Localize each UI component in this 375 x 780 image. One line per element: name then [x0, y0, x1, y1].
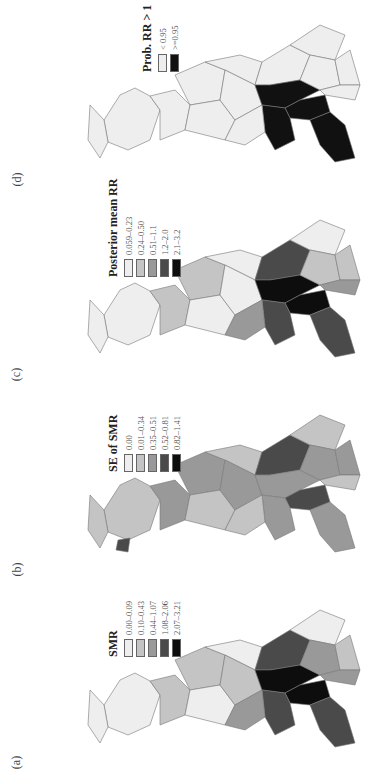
legend-label: 0.00 — [124, 435, 134, 450]
legend-item: >=0.95 — [169, 5, 180, 72]
legend-item: 2.07–3.21 — [171, 601, 182, 657]
panel-label-b: (b) — [10, 563, 25, 577]
legend-label: 2.1–3.2 — [172, 230, 182, 256]
legend-label: >=0.95 — [170, 26, 180, 50]
legend-b: SE of SMR 0.00 0.01–0.34 0.35–0.51 0.52–… — [106, 415, 183, 472]
legend-label: 0.51–1.1 — [148, 225, 158, 255]
map-panel-b: (b) SE of SMR 0.00 0.01–0.34 0.35–0.51 0… — [0, 390, 375, 585]
legend-d: Prob. RR > 1 < 0.95 >=0.95 — [140, 5, 181, 72]
legend-title: SMR — [106, 601, 121, 657]
legend-swatch — [124, 454, 133, 472]
legend-item: 0.51–1.1 — [147, 179, 158, 277]
legend-swatch — [160, 454, 169, 472]
legend-swatch — [148, 259, 157, 277]
legend-label: 0.44–1.07 — [148, 601, 158, 635]
legend-label: 1.08–2.06 — [160, 601, 170, 635]
map-panel-c: (c) Posterior mean RR 0.059–0.23 0.24–0.… — [0, 195, 375, 390]
legend-label: < 0.95 — [158, 28, 168, 50]
legend-swatch — [136, 639, 145, 657]
legend-swatch — [160, 259, 169, 277]
legend-c: Posterior mean RR 0.059–0.23 0.24–0.50 0… — [106, 179, 183, 277]
legend-item: 1.2–2.0 — [159, 179, 170, 277]
map-panel-d: (d) Prob. RR > 1 < 0.95 >=0.95 — [0, 0, 375, 195]
legend-item: 0.35–0.51 — [147, 415, 158, 472]
panel-label-d: (d) — [10, 173, 25, 187]
legend-item: < 0.95 — [157, 5, 168, 72]
panel-label-a: (a) — [9, 756, 24, 769]
legend-label: 0.059–0.23 — [124, 217, 134, 255]
choropleth-map-c — [0, 195, 375, 390]
legend-swatch — [170, 54, 179, 72]
legend-label: 0.52–0.81 — [160, 416, 170, 450]
legend-item: 0.82–1.41 — [171, 415, 182, 472]
choropleth-map-d — [0, 0, 375, 195]
legend-label: 0.24–0.50 — [136, 221, 146, 255]
legend-title: Prob. RR > 1 — [140, 5, 155, 72]
legend-item: 0.01–0.34 — [135, 415, 146, 472]
panel-label-c: (c) — [9, 368, 24, 381]
legend-swatch — [136, 259, 145, 277]
map-panel-a: (a) SMR 0.00–0.09 0.10–0.43 0.44–1.07 1.… — [0, 585, 375, 780]
legend-swatch — [148, 639, 157, 657]
legend-label: 0.35–0.51 — [148, 416, 158, 450]
legend-item: 0.00–0.09 — [123, 601, 134, 657]
legend-swatch — [172, 259, 181, 277]
legend-label: 0.00–0.09 — [124, 601, 134, 635]
legend-a: SMR 0.00–0.09 0.10–0.43 0.44–1.07 1.08–2… — [106, 601, 183, 657]
legend-swatch — [158, 54, 167, 72]
legend-title: SE of SMR — [106, 415, 121, 472]
legend-label: 0.10–0.43 — [136, 601, 146, 635]
legend-item: 0.00 — [123, 415, 134, 472]
legend-swatch — [160, 639, 169, 657]
legend-swatch — [172, 454, 181, 472]
legend-swatch — [148, 454, 157, 472]
legend-title: Posterior mean RR — [106, 179, 121, 277]
legend-swatch — [136, 454, 145, 472]
legend-swatch — [124, 259, 133, 277]
legend-swatch — [124, 639, 133, 657]
legend-label: 0.01–0.34 — [136, 416, 146, 450]
legend-item: 0.059–0.23 — [123, 179, 134, 277]
legend-item: 0.52–0.81 — [159, 415, 170, 472]
legend-item: 0.44–1.07 — [147, 601, 158, 657]
legend-item: 0.24–0.50 — [135, 179, 146, 277]
legend-item: 1.08–2.06 — [159, 601, 170, 657]
legend-item: 2.1–3.2 — [171, 179, 182, 277]
legend-label: 2.07–3.21 — [172, 601, 182, 635]
legend-swatch — [172, 639, 181, 657]
choropleth-map-a — [0, 585, 375, 780]
choropleth-map-b — [0, 390, 375, 585]
legend-item: 0.10–0.43 — [135, 601, 146, 657]
legend-label: 0.82–1.41 — [172, 416, 182, 450]
legend-label: 1.2–2.0 — [160, 230, 170, 256]
